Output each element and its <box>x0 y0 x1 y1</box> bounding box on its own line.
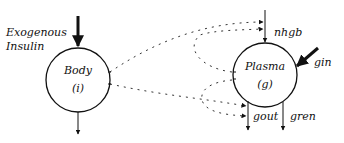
body-symbol: (i) <box>72 82 84 95</box>
body-to-gout-dashed-link <box>110 84 246 106</box>
exogenous-insulin-label-line2: Insulin <box>5 40 44 53</box>
nhgb-label: nhgb <box>274 26 302 39</box>
gren-label: gren <box>290 110 316 123</box>
plasma-symbol: (g) <box>257 78 273 91</box>
plasma-label: Plasma <box>244 60 285 73</box>
exogenous-insulin-label-line1: Exogenous <box>5 26 67 39</box>
body-to-nhgb-dashed-link <box>110 22 263 72</box>
compartment-diagram: Body (i) Exogenous Insulin Plasma (g) nh… <box>0 0 344 143</box>
gin-label: gin <box>314 56 332 69</box>
body-compartment <box>46 48 110 112</box>
body-label: Body <box>63 64 93 77</box>
plasma-compartment <box>233 43 297 107</box>
gout-label: gout <box>253 110 279 123</box>
plasma-to-gout-dashed-link <box>202 80 246 116</box>
